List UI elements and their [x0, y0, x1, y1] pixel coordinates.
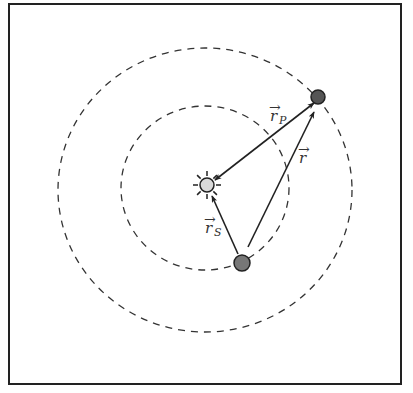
sun-ray — [197, 175, 201, 179]
sun-body — [200, 178, 214, 192]
planet-body — [311, 90, 325, 104]
star-body — [234, 255, 250, 271]
sun-ray — [197, 191, 201, 195]
label-r-s-main: r — [205, 219, 213, 237]
orbital-diagram: → r P → r → r S — [0, 0, 413, 393]
vector-r — [248, 112, 314, 247]
label-r: → r — [298, 141, 310, 167]
label-r-p-main: r — [270, 107, 278, 125]
label-r-s: → r S — [204, 211, 222, 239]
label-r-main: r — [299, 149, 307, 167]
diagram-frame — [9, 4, 401, 384]
label-r-p: → r P — [269, 99, 287, 127]
vector-r-s — [212, 196, 238, 254]
sun-ray — [213, 191, 217, 195]
label-r-s-sub: S — [214, 226, 222, 239]
sun-icon — [193, 171, 221, 199]
label-r-p-sub: P — [278, 114, 287, 127]
